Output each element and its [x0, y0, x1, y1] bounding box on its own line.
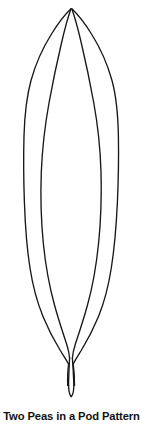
figure-caption: Two Peas in a Pod Pattern — [0, 409, 143, 423]
pod-inner-right-edge — [72, 9, 101, 358]
pod-drawing-canvas — [0, 0, 143, 405]
pattern-sheet: Two Peas in a Pod Pattern — [0, 0, 143, 433]
pod-inner-left-edge — [41, 9, 71, 358]
pod-outer-left-edge — [24, 9, 72, 364]
pod-figure — [0, 0, 143, 405]
pod-outer-right-edge — [72, 9, 119, 364]
